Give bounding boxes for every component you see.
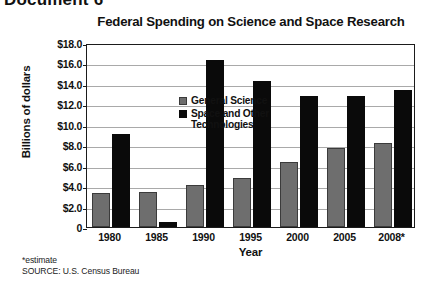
bar — [159, 222, 177, 227]
chart-footnotes: *estimate SOURCE: U.S. Census Bureau — [22, 255, 139, 276]
x-axis-tick-label: 2005 — [333, 231, 356, 243]
legend-item: General Science — [179, 95, 299, 107]
bar-group — [181, 45, 228, 227]
x-axis-tick-label: 1990 — [192, 231, 215, 243]
document-heading: Document 6 — [4, 0, 103, 10]
bar — [186, 185, 204, 227]
source-note: SOURCE: U.S. Census Bureau — [22, 266, 139, 277]
y-axis-tick-label: $14.0 — [36, 79, 82, 91]
bar — [347, 96, 365, 227]
chart-legend: General ScienceSpace and Other Technolog… — [179, 95, 299, 132]
y-axis-tick-label: $2.0 — [36, 202, 82, 214]
legend-item: Space and Other Technologies — [179, 108, 299, 131]
legend-swatch-icon — [179, 110, 187, 118]
bar — [280, 162, 298, 227]
estimate-note: *estimate — [22, 255, 139, 266]
bar-group — [369, 45, 416, 227]
legend-swatch-icon — [179, 97, 187, 105]
y-axis-tick-label: $6.0 — [36, 161, 82, 173]
y-axis-tick-label: $4.0 — [36, 181, 82, 193]
bar — [92, 193, 110, 227]
y-axis-tickmark — [83, 229, 87, 230]
x-axis-tick-label: 2000 — [286, 231, 309, 243]
x-axis-tick-label: 1980 — [98, 231, 121, 243]
legend-item-label: General Science — [191, 95, 267, 107]
y-axis-tick-label: $16.0 — [36, 58, 82, 70]
x-axis-tick-labels: 1980198519901995200020052008* — [86, 231, 415, 245]
y-axis-tick-label: $8.0 — [36, 140, 82, 152]
bar-series-layer — [87, 45, 414, 227]
bar-group — [275, 45, 322, 227]
bar — [139, 192, 157, 227]
y-axis-tick-label: 0 — [36, 222, 82, 234]
y-axis-title: Billions of dollars — [20, 47, 32, 177]
bar — [394, 90, 412, 227]
bar-group — [322, 45, 369, 227]
bar — [112, 134, 130, 227]
bar — [233, 178, 251, 227]
bar-group — [87, 45, 134, 227]
y-axis-tick-labels: $18.0$16.0$14.0$12.0$10.0$8.0$6.0$4.0$2.… — [36, 44, 82, 228]
legend-item-label: Space and Other Technologies — [191, 108, 299, 131]
bar — [206, 60, 224, 227]
plot-area: General ScienceSpace and Other Technolog… — [86, 44, 415, 228]
x-axis-tick-label: 2008* — [378, 231, 404, 243]
x-axis-tick-label: 1995 — [239, 231, 262, 243]
chart-title: Federal Spending on Science and Space Re… — [86, 14, 416, 29]
bar-group — [228, 45, 275, 227]
y-axis-tick-label: $12.0 — [36, 99, 82, 111]
x-axis-tick-label: 1985 — [145, 231, 168, 243]
y-axis-tick-label: $18.0 — [36, 38, 82, 50]
bar-group — [134, 45, 181, 227]
bar — [327, 148, 345, 227]
bar — [374, 143, 392, 227]
y-axis-tick-label: $10.0 — [36, 120, 82, 132]
bar — [300, 96, 318, 227]
